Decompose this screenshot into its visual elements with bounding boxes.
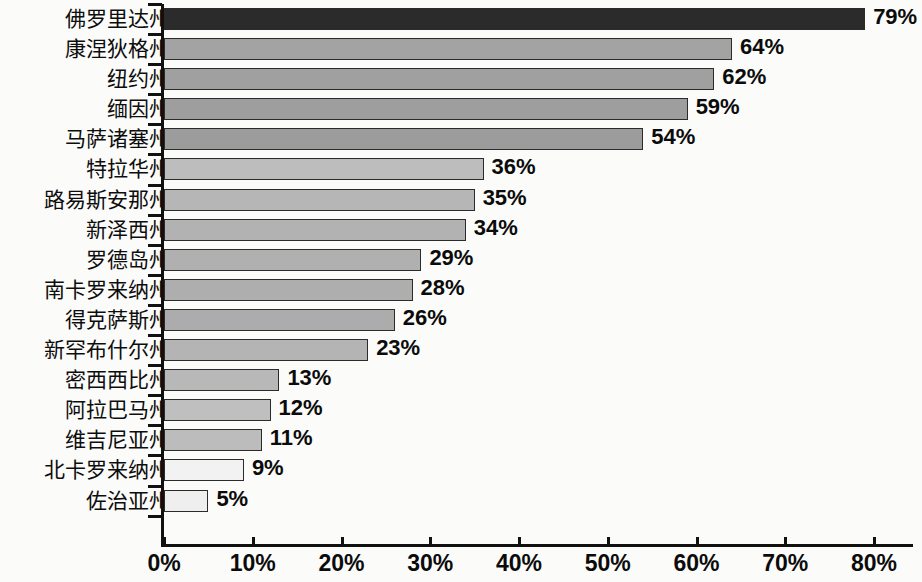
x-axis-ticks: 0%10%20%30%40%50%60%70%80% — [0, 0, 922, 582]
x-axis-tick-label: 80% — [814, 550, 922, 577]
plot-area: 佛罗里达州79%康涅狄格州64%纽约州62%缅因州59%马萨诸塞州54%特拉华州… — [0, 0, 922, 582]
bar-chart: 佛罗里达州79%康涅狄格州64%纽约州62%缅因州59%马萨诸塞州54%特拉华州… — [0, 0, 922, 582]
x-axis-tick — [696, 537, 699, 547]
x-axis-tick — [163, 537, 166, 547]
x-axis-tick — [341, 537, 344, 547]
x-axis-tick — [518, 537, 521, 547]
x-axis-tick — [873, 537, 876, 547]
x-axis-tick — [252, 537, 255, 547]
x-axis-tick — [429, 537, 432, 547]
x-axis-tick — [784, 537, 787, 547]
x-axis-tick — [607, 537, 610, 547]
